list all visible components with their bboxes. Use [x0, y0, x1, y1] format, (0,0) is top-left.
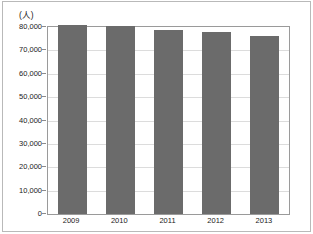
bar[interactable] — [154, 30, 183, 214]
x-axis-tick-label: 2013 — [240, 216, 288, 225]
y-axis-tick-mark — [42, 166, 46, 167]
bar-series — [48, 27, 289, 214]
plot-area — [47, 26, 290, 215]
y-axis-tick-mark — [42, 73, 46, 74]
bar[interactable] — [106, 26, 135, 214]
x-axis-tick-label: 2010 — [95, 216, 143, 225]
bar[interactable] — [202, 32, 231, 214]
bar-slot — [193, 27, 241, 214]
y-axis-tick-mark — [42, 190, 46, 191]
y-axis-tick-mark — [42, 96, 46, 97]
y-axis-tick-mark — [42, 213, 46, 214]
bar-slot — [144, 27, 192, 214]
bar-slot — [96, 27, 144, 214]
y-axis-tick-mark — [42, 49, 46, 50]
bar[interactable] — [58, 25, 87, 214]
x-axis-tick-label: 2011 — [143, 216, 191, 225]
x-axis-tick-label: 2012 — [192, 216, 240, 225]
bar[interactable] — [250, 36, 279, 214]
y-axis-tick-mark — [42, 120, 46, 121]
y-axis-tick-mark — [42, 143, 46, 144]
y-axis-unit-label: (人) — [19, 8, 34, 20]
bar-slot — [241, 27, 289, 214]
y-axis-tick-marks — [0, 26, 47, 213]
bar-chart-figure: (人) 010,00020,00030,00040,00050,00060,00… — [0, 0, 313, 234]
y-axis-tick-mark — [42, 26, 46, 27]
bar-slot — [48, 27, 96, 214]
x-axis-tick-labels: 20092010201120122013 — [47, 216, 288, 225]
x-axis-tick-label: 2009 — [47, 216, 95, 225]
